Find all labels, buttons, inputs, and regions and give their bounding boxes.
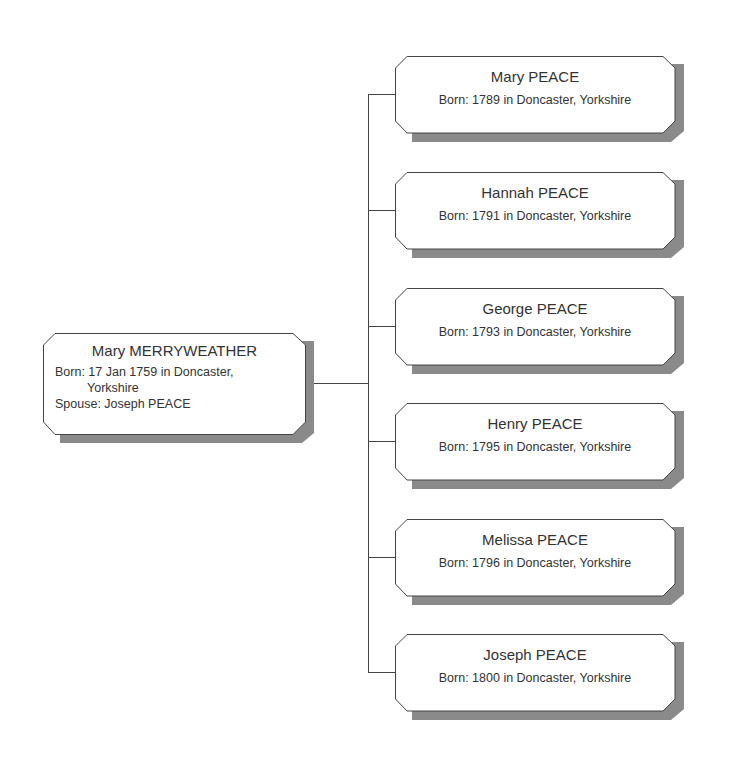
person-node-child[interactable]: Joseph PEACE Born: 1800 in Doncaster, Yo…	[395, 634, 675, 711]
child-connector-6	[368, 672, 395, 673]
person-name: George PEACE	[395, 300, 675, 318]
person-node-child[interactable]: George PEACE Born: 1793 in Doncaster, Yo…	[395, 288, 675, 365]
person-node-root[interactable]: Mary MERRYWEATHER Born: 17 Jan 1759 in D…	[43, 333, 306, 435]
person-name: Joseph PEACE	[395, 646, 675, 664]
person-node-child[interactable]: Mary PEACE Born: 1789 in Doncaster, York…	[395, 56, 675, 133]
birth-info: Born: 1796 in Doncaster, Yorkshire	[395, 555, 675, 571]
person-name: Henry PEACE	[395, 415, 675, 433]
person-name: Hannah PEACE	[395, 184, 675, 202]
child-connector-3	[368, 326, 395, 327]
person-name: Mary MERRYWEATHER	[43, 342, 306, 360]
person-node-child[interactable]: Henry PEACE Born: 1795 in Doncaster, Yor…	[395, 403, 675, 480]
sibling-spine	[368, 94, 369, 673]
person-node-child[interactable]: Melissa PEACE Born: 1796 in Doncaster, Y…	[395, 519, 675, 596]
child-connector-2	[368, 210, 395, 211]
person-name: Melissa PEACE	[395, 531, 675, 549]
spouse-info: Spouse: Joseph PEACE	[43, 396, 306, 412]
birth-info: Born: 1789 in Doncaster, Yorkshire	[395, 92, 675, 108]
birth-info: Born: 1800 in Doncaster, Yorkshire	[395, 670, 675, 686]
child-connector-1	[368, 94, 395, 95]
child-connector-5	[368, 557, 395, 558]
child-connector-4	[368, 441, 395, 442]
birth-info: Born: 1791 in Doncaster, Yorkshire	[395, 208, 675, 224]
person-node-child[interactable]: Hannah PEACE Born: 1791 in Doncaster, Yo…	[395, 172, 675, 249]
birth-info-continued: Yorkshire	[43, 380, 306, 396]
birth-info: Born: 17 Jan 1759 in Doncaster,	[43, 364, 306, 380]
birth-info: Born: 1795 in Doncaster, Yorkshire	[395, 439, 675, 455]
birth-info: Born: 1793 in Doncaster, Yorkshire	[395, 324, 675, 340]
person-name: Mary PEACE	[395, 68, 675, 86]
